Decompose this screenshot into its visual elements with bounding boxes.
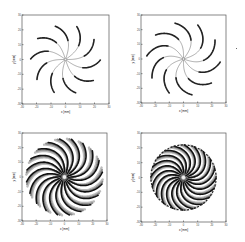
x-tick-label: 30	[108, 105, 111, 109]
y-tick-label: -10	[17, 72, 21, 76]
x-tick-label: -20	[153, 223, 157, 227]
y-tick-label: 30	[18, 131, 21, 135]
y-tick-label: 0	[20, 58, 22, 62]
x-tick-label: 0	[183, 223, 185, 227]
y-tick-label: 10	[137, 161, 140, 165]
y-tick-label: 10	[18, 43, 21, 47]
y-tick-label: 10	[137, 42, 140, 46]
y-axis-title: y [mm]	[12, 55, 16, 64]
x-tick-label: -20	[153, 104, 157, 108]
y-tick-label: 20	[18, 28, 21, 32]
y-tick-label: 0	[139, 176, 141, 180]
y-tick-label: 30	[137, 131, 140, 135]
x-tick-label: 10	[196, 104, 199, 108]
y-axis-title: y [mm]	[12, 172, 16, 181]
x-tick-label: -20	[35, 105, 39, 109]
x-axis-title: x [mm]	[61, 110, 70, 114]
y-tick-label: 20	[137, 28, 140, 32]
x-tick-label: -10	[167, 104, 171, 108]
y-tick-label: -10	[136, 190, 140, 194]
x-tick-label: 0	[65, 105, 67, 109]
x-tick-label: 30	[225, 223, 228, 227]
x-tick-label: 30	[225, 104, 228, 108]
x-tick-label: -10	[167, 223, 171, 227]
x-tick-label: 20	[93, 105, 96, 109]
spiral-trajectories	[26, 139, 102, 215]
y-tick-label: -20	[17, 87, 21, 91]
spiral-trajectories	[151, 145, 216, 210]
x-tick-label: -20	[34, 222, 38, 226]
x-tick-label: 20	[91, 222, 94, 226]
x-tick-label: -10	[48, 222, 52, 226]
spiral-trajectories	[147, 23, 220, 95]
y-tick-label: -30	[17, 219, 21, 223]
x-axis-title: x [mm]	[179, 228, 188, 232]
y-tick-label: 30	[137, 13, 140, 17]
y-tick-label: 0	[139, 57, 141, 61]
y-axis-title: y [mm]	[131, 54, 135, 63]
x-tick-label: 20	[210, 223, 213, 227]
plot-panel-bottom-left: -30-20-100102030-30-20-100102030x [mm]y …	[10, 129, 111, 231]
y-tick-label: 0	[20, 175, 22, 179]
x-tick-label: -10	[49, 105, 53, 109]
y-tick-label: -30	[136, 101, 140, 105]
plot-panel-top-left: -30-20-100102030-30-20-100102030x [mm]y …	[10, 11, 113, 114]
x-tick-label: 10	[79, 105, 82, 109]
stray-mark	[236, 48, 237, 49]
y-tick-label: -20	[136, 205, 140, 209]
y-tick-label: -20	[136, 86, 140, 90]
y-tick-label: -10	[17, 190, 21, 194]
x-tick-label: 10	[196, 223, 199, 227]
x-tick-label: 10	[77, 222, 80, 226]
x-axis-title: x [mm]	[60, 227, 69, 231]
y-tick-label: -30	[17, 102, 21, 106]
x-tick-label: 0	[64, 222, 66, 226]
y-tick-label: -30	[136, 220, 140, 224]
x-tick-label: 30	[106, 222, 109, 226]
spiral-trajectories	[31, 26, 101, 93]
x-tick-label: 0	[183, 104, 185, 108]
y-tick-label: 10	[18, 160, 21, 164]
plot-panel-top-right: -30-20-100102030-30-20-100102030x [mm]y …	[129, 11, 230, 113]
y-tick-label: -20	[17, 204, 21, 208]
y-axis-title: y [mm]	[131, 173, 135, 182]
x-tick-label: 20	[210, 104, 213, 108]
y-tick-label: 20	[137, 146, 140, 150]
x-axis-title: x [mm]	[179, 109, 188, 113]
y-tick-label: 30	[18, 13, 21, 17]
plot-panel-bottom-right: -30-20-100102030-30-20-100102030x [mm]y …	[129, 129, 230, 232]
y-tick-label: 20	[18, 146, 21, 150]
y-tick-label: -10	[136, 72, 140, 76]
